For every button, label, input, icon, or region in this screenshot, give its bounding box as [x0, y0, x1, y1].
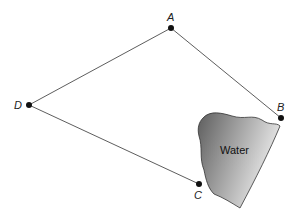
point-B	[278, 115, 284, 121]
diagram-canvas: Water A B C D	[0, 0, 300, 215]
point-D	[26, 102, 32, 108]
segment-AB	[171, 28, 281, 118]
water-region: Water	[198, 113, 280, 208]
point-A-label: A	[166, 11, 174, 23]
point-C	[196, 181, 202, 187]
segment-DC	[29, 105, 199, 184]
point-D-label: D	[14, 99, 22, 111]
segment-DA	[29, 28, 171, 105]
water-label: Water	[220, 144, 249, 156]
point-A	[168, 25, 174, 31]
point-B-label: B	[277, 101, 284, 113]
point-C-label: C	[194, 189, 202, 201]
